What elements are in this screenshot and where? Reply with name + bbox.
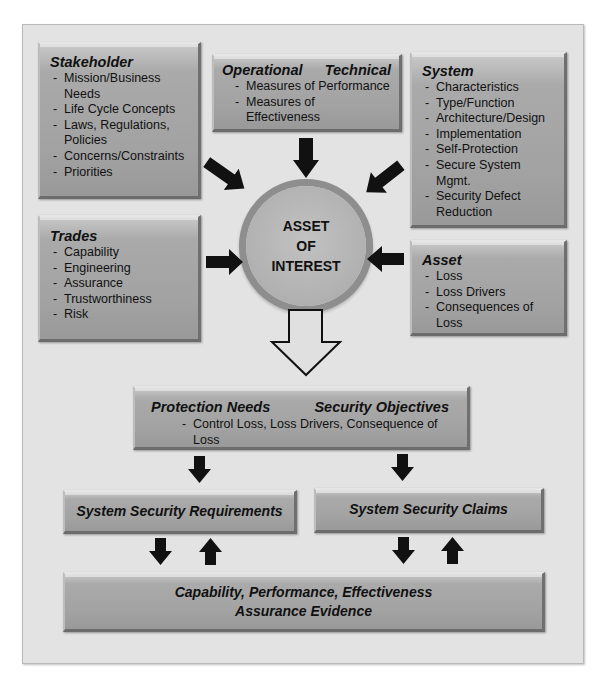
list-item: Concerns/Constraints	[50, 149, 190, 165]
center-line: ASSET	[283, 216, 330, 236]
protection-needs-title: Protection Needs	[151, 399, 270, 416]
system-box: System Characteristics Type/Function Arc…	[410, 52, 567, 228]
system-list: Characteristics Type/Function Architectu…	[422, 80, 558, 220]
list-item: Consequences of Loss	[422, 300, 558, 331]
list-item: Measures of Effectiveness	[232, 95, 391, 126]
protection-list: Control Loss, Loss Drivers, Consequence …	[151, 417, 449, 448]
list-item: Loss	[422, 269, 558, 285]
list-item: Security Defect Reduction	[422, 189, 536, 220]
stakeholder-box: Stakeholder Mission/Business Needs Life …	[38, 42, 201, 199]
list-item: Risk	[50, 307, 190, 323]
system-security-requirements-box: System Security Requirements	[63, 490, 297, 534]
list-item: Assurance	[50, 276, 190, 292]
list-item: Characteristics	[422, 80, 558, 96]
center-line: OF	[296, 236, 315, 256]
asset-title: Asset	[422, 252, 558, 269]
security-objectives-title: Security Objectives	[314, 399, 449, 416]
trades-list: Capability Engineering Assurance Trustwo…	[50, 245, 190, 323]
list-item: Life Cycle Concepts	[50, 102, 190, 118]
system-security-claims-box: System Security Claims	[314, 488, 544, 533]
claims-label: System Security Claims	[349, 502, 508, 518]
technical-title: Technical	[325, 62, 391, 79]
list-item: Control Loss, Loss Drivers, Consequence …	[179, 417, 449, 448]
list-item: Priorities	[50, 165, 190, 181]
list-item: Implementation	[422, 127, 558, 143]
list-item: Measures of Performance	[232, 79, 391, 95]
operational-title: Operational	[222, 62, 303, 79]
stakeholder-title: Stakeholder	[50, 54, 190, 71]
trades-box: Trades Capability Engineering Assurance …	[38, 215, 201, 342]
protection-needs-box: Protection Needs Security Objectives Con…	[133, 386, 470, 450]
asset-of-interest-circle: ASSET OF INTEREST	[246, 186, 366, 306]
asset-list: Loss Loss Drivers Consequences of Loss	[422, 269, 558, 331]
operational-technical-box: Operational Technical Measures of Perfor…	[212, 54, 402, 132]
operational-technical-list: Measures of Performance Measures of Effe…	[222, 79, 391, 126]
list-item: Laws, Regulations, Policies	[50, 118, 184, 149]
list-item: Secure System Mgmt.	[422, 158, 558, 189]
list-item: Capability	[50, 245, 190, 261]
list-item: Engineering	[50, 261, 190, 277]
evidence-line: Assurance Evidence	[235, 602, 372, 621]
list-item: Trustworthiness	[50, 292, 190, 308]
trades-title: Trades	[50, 228, 190, 245]
center-line: INTEREST	[271, 256, 340, 276]
asset-box: Asset Loss Loss Drivers Consequences of …	[410, 240, 567, 336]
requirements-label: System Security Requirements	[76, 504, 282, 520]
evidence-line: Capability, Performance, Effectiveness	[175, 583, 433, 602]
assurance-evidence-box: Capability, Performance, Effectiveness A…	[63, 572, 545, 632]
protection-title: Protection Needs Security Objectives	[151, 399, 449, 416]
list-item: Loss Drivers	[422, 285, 558, 301]
stakeholder-list: Mission/Business Needs Life Cycle Concep…	[50, 71, 190, 180]
list-item: Architecture/Design	[422, 111, 558, 127]
list-item: Mission/Business Needs	[50, 71, 190, 102]
operational-technical-title: Operational Technical	[222, 62, 391, 79]
list-item: Self-Protection	[422, 142, 558, 158]
system-title: System	[422, 63, 558, 80]
list-item: Type/Function	[422, 96, 558, 112]
